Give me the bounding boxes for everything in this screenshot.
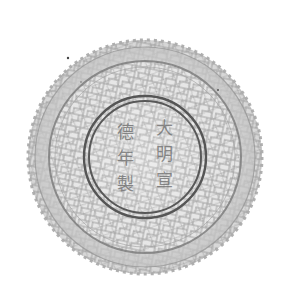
reign-mark-char: 年: [117, 150, 134, 167]
reign-mark-char: 德: [117, 124, 134, 141]
reign-mark-char: 明: [156, 146, 173, 163]
reign-mark-char: 製: [117, 176, 134, 193]
reign-mark-char: 宣: [156, 172, 173, 189]
reign-mark-char: 大: [156, 120, 173, 137]
dish-base-illustration: [0, 0, 288, 299]
porcelain-dish-photo: 大 明 宣 德 年 製: [0, 0, 288, 299]
